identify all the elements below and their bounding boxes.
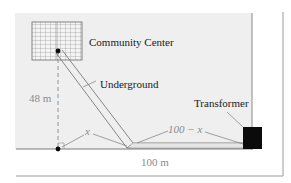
building-connection-dot [56, 49, 61, 54]
total-width-label: 100 m [141, 156, 169, 168]
remaining-segment-label: 100 − x [168, 123, 202, 135]
ground-foot-dot [56, 147, 61, 152]
x-segment-label: x [85, 125, 90, 137]
transformer-label: Transformer [194, 97, 249, 109]
transformer-box [243, 127, 262, 149]
height-label: 48 m [29, 92, 51, 104]
community-center-label: Community Center [89, 36, 174, 48]
underground-label: Underground [100, 78, 158, 90]
